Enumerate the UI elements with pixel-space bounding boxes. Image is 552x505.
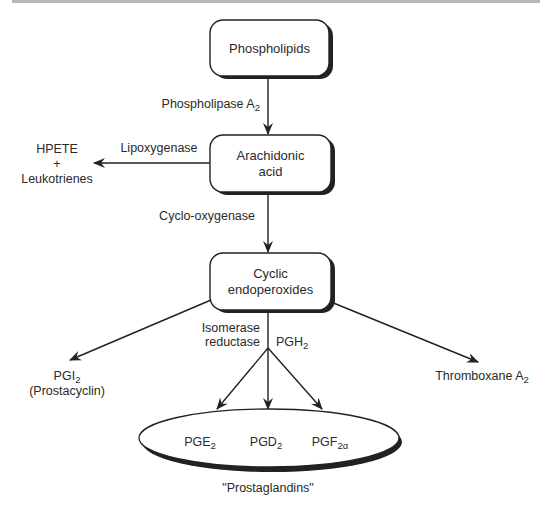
node-phospholipids: Phospholipids [210,20,333,79]
leukotrienes-label: Leukotrienes [21,172,93,186]
pathway-diagram: Phospholipids Phospholipase A2 Arachidon… [0,0,552,505]
arrow-pgh2-to-pgf2a [268,348,322,409]
pgi2-label: PGI2 [54,369,81,385]
node-arachidonic-acid: Arachidonic acid [210,135,335,195]
cyclic-line2: endoperoxides [228,282,314,297]
isomerase-label: Isomerase [202,321,260,335]
arachidonic-line1: Arachidonic [237,148,305,163]
cyclic-line1: Cyclic [253,266,288,281]
phospholipids-label: Phospholipids [229,41,310,56]
prostaglandins-caption: "Prostaglandins" [222,481,314,495]
arrow-cyclic-to-thromboxane [331,302,478,362]
lipoxygenase-label: Lipoxygenase [120,141,197,155]
node-prostaglandins: PGE2 PGD2 PGF2α [139,409,402,472]
pgh2-label: PGH2 [276,335,308,351]
cyclooxygenase-label: Cyclo-oxygenase [159,209,255,223]
arrow-cyclic-to-pgi2 [70,300,211,360]
node-thromboxane: Thromboxane A2 [435,369,529,385]
node-hpete-leukotrienes: HPETE + Leukotrienes [21,142,93,186]
arachidonic-line2: acid [259,164,283,179]
hpete-label: HPETE [36,142,78,156]
phospholipase-label: Phospholipase A2 [162,97,260,113]
node-cyclic-endoperoxides: Cyclic endoperoxides [210,253,335,313]
node-pgi2: PGI2 (Prostacyclin) [29,369,105,398]
prostacyclin-label: (Prostacyclin) [29,384,105,398]
reductase-label: reductase [205,335,260,349]
arrow-pgh2-to-pge2 [217,348,268,409]
plus-label: + [53,157,60,171]
